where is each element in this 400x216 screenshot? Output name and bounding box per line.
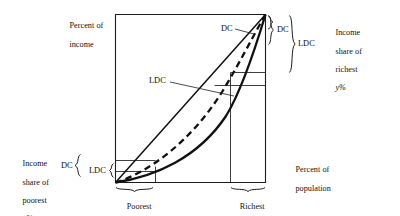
richest-bracket [231, 188, 265, 192]
richest-label-line1: Richest [240, 202, 265, 211]
lorenz-curve-figure: Percent of income Percent of population … [0, 0, 400, 216]
left-ldc-bracket [110, 164, 114, 178]
x-axis-label-line1: Percent of [295, 165, 329, 174]
left-dc-bracket [75, 155, 81, 177]
left-bracket-caption: Income share of poorest x% [14, 150, 49, 216]
x-axis-label: Percent of population [287, 156, 331, 202]
left-caption-line4: x% [22, 214, 33, 216]
ldc-leader-line [170, 82, 234, 96]
right-bracket-caption: Income share of richest y% [327, 19, 362, 102]
poorest-bracket-label: Poorest x% [104, 193, 166, 216]
y-axis-label-line2: income [69, 40, 93, 49]
y-axis-label-line1: Percent of [69, 21, 103, 30]
ldc-curve-label: LDC [149, 76, 166, 85]
y-axis-label: Percent of income [61, 12, 103, 58]
dc-curve-label: DC [221, 24, 233, 33]
right-ldc-bracket [290, 16, 296, 73]
left-dc-bracket-label: DC [61, 161, 73, 170]
left-caption-line1: Income [22, 159, 47, 168]
left-ldc-bracket-label: LDC [89, 166, 106, 175]
x-axis-label-line2: population [295, 184, 331, 193]
right-caption-line2: share of [335, 47, 362, 56]
right-ldc-bracket-label: LDC [298, 39, 315, 48]
richest-bracket-label: Richest y% [217, 193, 279, 216]
left-caption-line3: poorest [22, 196, 46, 205]
right-dc-bracket-label: DC [277, 25, 289, 34]
poorest-bracket [116, 188, 153, 192]
poorest-label-line1: Poorest [127, 202, 152, 211]
right-caption-line3: richest [335, 65, 357, 74]
equality-line [116, 15, 266, 183]
right-caption-line4: y% [335, 83, 346, 92]
right-caption-line1: Income [335, 28, 360, 37]
left-caption-line2: share of [22, 178, 49, 187]
